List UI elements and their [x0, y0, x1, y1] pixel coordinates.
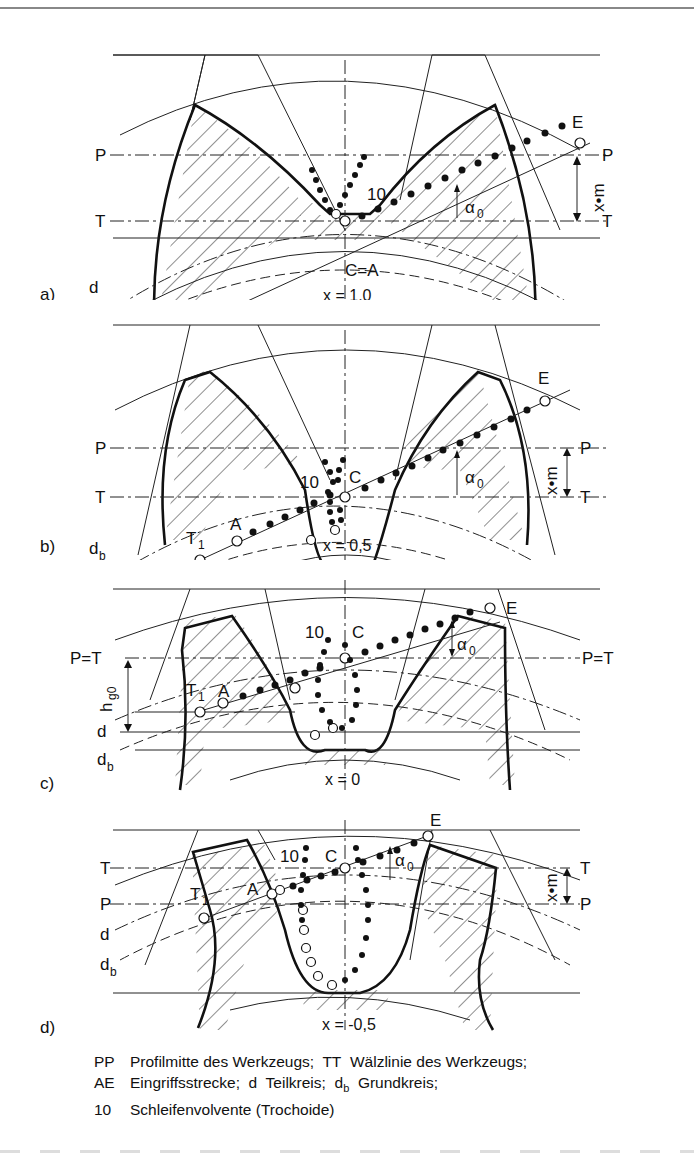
label-p-right: P — [580, 895, 591, 914]
label-e: E — [430, 811, 441, 830]
panel-a: P P T T E C=A 10 α 0 x•m T 1 d d b x = 1… — [0, 30, 694, 300]
label-alpha: α — [465, 198, 475, 217]
trochoid-curve — [322, 457, 346, 525]
label-p-right: P — [602, 146, 613, 165]
label-d: d — [97, 722, 106, 741]
panel-b: P P T T E C A 10 α 0 x•m T 1 d d b x = 0… — [0, 300, 694, 560]
svg-text:0: 0 — [477, 207, 484, 221]
svg-text:0: 0 — [477, 477, 484, 491]
panel-d: T T P P E C A 10 α 0 x•m T 1 d d b x = -… — [0, 800, 694, 1045]
top-rule — [0, 7, 694, 9]
legend-text: Grundkreis; — [358, 1074, 438, 1091]
label-alpha: α — [465, 468, 475, 487]
legend-key: TT — [322, 1053, 341, 1070]
point-c — [340, 863, 350, 873]
svg-text:b: b — [107, 760, 114, 774]
point-t1 — [195, 707, 205, 717]
legend-key: d — [335, 1074, 344, 1091]
point-e — [540, 396, 550, 406]
caption-shift: x = -0,5 — [322, 1016, 376, 1033]
legend-key: PP — [94, 1051, 130, 1072]
label-db: d — [97, 750, 106, 769]
point-c-a — [340, 216, 350, 226]
label-c: C — [352, 623, 364, 642]
panel-c: P=T P=T E C A 10 α 0 h g0 T 1 d d b x = … — [0, 560, 694, 800]
panel-label: d) — [40, 1018, 55, 1037]
label-t-left: T — [95, 488, 105, 507]
label-xm: x•m — [542, 873, 561, 902]
svg-text:0: 0 — [469, 644, 476, 658]
legend-row: AEEingriffsstrecke; d Teilkreis; db Grun… — [94, 1072, 527, 1099]
legend-row: 10Schleifenvolvente (Trochoide) — [94, 1099, 527, 1120]
label-trochoid: 10 — [300, 473, 319, 492]
label-t-right: T — [602, 212, 612, 231]
label-t-left: T — [100, 859, 110, 878]
label-xm: x•m — [542, 466, 561, 495]
label-alpha: α — [457, 635, 467, 654]
caption-shift: x = 0 — [325, 771, 360, 788]
label-t1: T — [186, 681, 196, 700]
label-trochoid: 10 — [367, 185, 386, 204]
label-e: E — [506, 599, 517, 618]
caption-shift: x = 1,0 — [323, 287, 372, 300]
point-c — [340, 492, 350, 502]
label-p-left: P — [95, 439, 106, 458]
legend-key: 10 — [94, 1099, 130, 1120]
label-p-right: P — [580, 439, 591, 458]
label-trochoid: 10 — [305, 623, 324, 642]
svg-text:b: b — [110, 965, 117, 979]
svg-text:1: 1 — [202, 894, 209, 908]
legend-key: AE — [94, 1072, 130, 1093]
legend-text: Schleifenvolvente (Trochoide) — [130, 1101, 334, 1118]
legend-key: d — [249, 1074, 258, 1091]
label-t1: T — [186, 529, 196, 548]
panel-label: b) — [40, 537, 55, 556]
svg-text:1: 1 — [198, 690, 205, 704]
label-db: d — [100, 955, 109, 974]
point-a — [232, 536, 242, 546]
label-t1: T — [190, 885, 200, 904]
point-e — [575, 138, 585, 148]
svg-text:g0: g0 — [105, 686, 119, 700]
svg-text:b: b — [99, 549, 106, 560]
figure-legend: PPProfilmitte des Werkzeugs; TT Wälzlini… — [94, 1051, 527, 1120]
label-trochoid: 10 — [280, 847, 299, 866]
label-p-left: P — [100, 895, 111, 914]
svg-text:1: 1 — [198, 538, 205, 552]
label-c-a: C=A — [345, 261, 379, 280]
label-t-left: T — [95, 212, 105, 231]
label-hg0: h — [97, 703, 116, 712]
label-c: C — [325, 847, 337, 866]
label-a: A — [247, 880, 259, 899]
point-e — [423, 831, 433, 841]
label-e: E — [538, 369, 549, 388]
label-t-right: T — [580, 488, 590, 507]
legend-text: Profilmitte des Werkzeugs; — [130, 1053, 314, 1070]
point-e — [485, 603, 495, 613]
panel-label: c) — [40, 774, 54, 793]
label-xm: x•m — [589, 183, 608, 212]
label-pt-left: P=T — [70, 649, 102, 668]
label-t-right: T — [580, 859, 590, 878]
point-t1 — [199, 913, 209, 923]
label-a: A — [230, 515, 242, 534]
caption-shift: x = 0,5 — [323, 537, 372, 554]
label-alpha: α — [395, 851, 405, 870]
panel-label: a) — [40, 285, 55, 300]
label-d: d — [100, 925, 109, 944]
svg-text:0: 0 — [407, 860, 414, 874]
trochoid-curve — [315, 637, 360, 731]
label-c: C — [349, 468, 361, 487]
legend-text: Eingriffsstrecke; — [130, 1074, 240, 1091]
label-a: A — [218, 682, 230, 701]
label-e: E — [572, 113, 583, 132]
legend-text: Wälzlinie des Werkzeugs; — [350, 1053, 527, 1070]
label-db: d — [89, 539, 98, 558]
label-p-left: P — [95, 146, 106, 165]
label-pt-right: P=T — [582, 649, 614, 668]
legend-row: PPProfilmitte des Werkzeugs; TT Wälzlini… — [94, 1051, 527, 1072]
label-d: d — [89, 278, 98, 297]
legend-text: Teilkreis; — [266, 1074, 326, 1091]
